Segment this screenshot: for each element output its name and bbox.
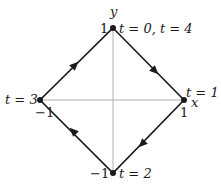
t-label-bottom: t = 2: [119, 166, 152, 181]
tick-label-y-1: 1: [100, 21, 108, 36]
t-label-left: t = 3: [5, 92, 38, 107]
tick-label-x-1: 1: [180, 105, 188, 120]
vertex-top: [110, 25, 116, 31]
t-label-top: t = 0, t = 4: [119, 21, 193, 36]
tick-label-x-neg1: −1: [35, 105, 54, 120]
parametric-diamond-diagram: y x 1 1 −1 −1 t = 0, t = 4 t = 1 t = 2 t…: [0, 0, 221, 190]
y-axis-label: y: [109, 4, 118, 19]
direction-arrows: [67, 59, 161, 150]
t-label-right: t = 1: [186, 85, 219, 100]
arrow-icon: [67, 125, 79, 137]
vertex-left: [37, 97, 43, 103]
tick-label-y-neg1: −1: [90, 166, 109, 181]
vertex-bottom: [110, 170, 116, 176]
